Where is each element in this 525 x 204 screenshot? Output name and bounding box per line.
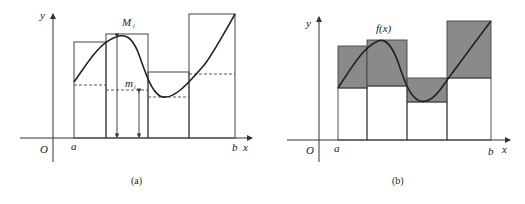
a-label: a [334, 142, 340, 154]
y-axis-label: y [39, 9, 45, 21]
b-label: b [232, 141, 238, 153]
lower-bound-subscript: i [134, 84, 136, 90]
panel-a-caption: (a) [131, 175, 142, 187]
x-axis-label: x [242, 141, 248, 153]
upper-bound-subscript: i [133, 23, 135, 29]
riemann-sum-figure: y x O a b M i m i (a) y x [0, 0, 525, 204]
y-axis-label: y [305, 17, 311, 29]
x-axis-label: x [501, 143, 507, 155]
origin-label: O [40, 143, 48, 155]
panel-b-caption: (b) [392, 175, 404, 187]
upper-rectangles [74, 14, 235, 138]
function-label: f(x) [376, 22, 392, 35]
upper-bound-label: M [121, 16, 132, 28]
shaded-difference-regions [338, 21, 491, 102]
panel-b: y x O a b f(x) (b) [287, 17, 510, 187]
panel-a: y x O a b M i m i (a) [20, 9, 252, 187]
a-label: a [71, 140, 77, 152]
function-curve [74, 14, 235, 97]
b-label: b [488, 145, 494, 157]
lower-bound-label: m [125, 77, 133, 89]
lower-sum-dashed-lines [74, 74, 235, 97]
origin-label: O [306, 144, 314, 156]
